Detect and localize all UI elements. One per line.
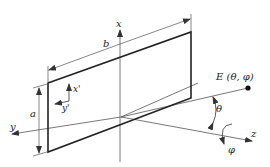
y-axis-label: y <box>9 121 16 132</box>
field-point-label: E (θ, φ) <box>215 71 254 82</box>
x-axis-label: x <box>116 18 122 29</box>
local-x-label: x' <box>73 84 81 94</box>
phi-label: φ <box>228 144 235 155</box>
field-point-line <box>121 88 248 117</box>
b-dimension-line-right <box>120 19 190 44</box>
field-point-dot <box>245 85 250 90</box>
phi-arc <box>222 124 232 144</box>
a-extension-top <box>33 84 47 88</box>
aperture-diagram: x y z b a x' y' E (θ, φ) θ φ <box>0 0 270 167</box>
aperture-plate <box>48 32 191 152</box>
z-axis <box>121 117 252 141</box>
a-label: a <box>30 108 36 119</box>
z-axis-label: z <box>250 128 257 139</box>
local-y-label: y' <box>61 103 70 113</box>
theta-label: θ <box>216 103 222 114</box>
b-label: b <box>103 38 109 49</box>
a-extension-bottom <box>33 152 47 156</box>
